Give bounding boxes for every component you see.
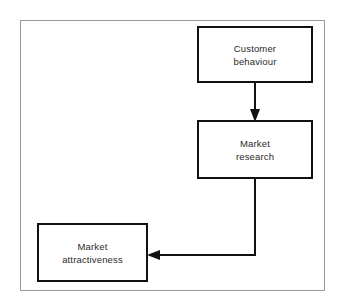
edge-customer-behaviour-to-market-research xyxy=(250,82,260,122)
arrowhead-left-icon xyxy=(147,250,160,260)
edge-market-research-to-market-attractiveness xyxy=(147,178,255,260)
node-market-attractiveness[interactable] xyxy=(38,224,147,281)
node-market-research[interactable] xyxy=(198,121,312,178)
edge-line-elbow xyxy=(154,178,255,255)
diagram-root: Customer behaviour Market research Marke… xyxy=(0,0,344,305)
node-customer-behaviour[interactable] xyxy=(198,27,312,82)
diagram-canvas xyxy=(0,0,344,305)
